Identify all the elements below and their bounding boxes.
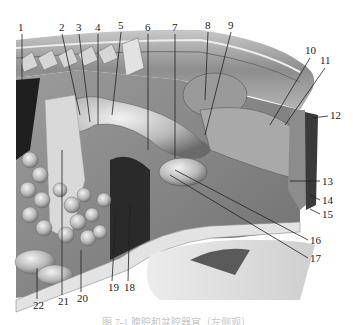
label-18: 18 <box>124 282 135 293</box>
label-17: 17 <box>310 253 321 264</box>
label-21: 21 <box>58 296 69 307</box>
label-4: 4 <box>95 22 101 33</box>
label-22: 22 <box>33 300 44 311</box>
figure-caption: 图 7-1 腹腔和盆腔器官（左侧观） <box>0 314 353 325</box>
label-3: 3 <box>76 22 82 33</box>
label-19: 19 <box>108 282 119 293</box>
label-7: 7 <box>172 22 178 33</box>
label-5: 5 <box>118 20 124 31</box>
label-6: 6 <box>145 22 151 33</box>
label-12: 12 <box>330 110 341 121</box>
label-8: 8 <box>205 20 211 31</box>
label-13: 13 <box>322 176 333 187</box>
label-9: 9 <box>228 20 234 31</box>
label-11: 11 <box>320 55 331 66</box>
label-16: 16 <box>310 235 321 246</box>
bladder <box>159 158 207 186</box>
anatomy-illustration <box>0 0 353 325</box>
label-2: 2 <box>59 22 65 33</box>
label-15: 15 <box>322 209 333 220</box>
label-1: 1 <box>18 22 24 33</box>
label-14: 14 <box>322 195 333 206</box>
label-10: 10 <box>305 45 316 56</box>
label-20: 20 <box>77 293 88 304</box>
